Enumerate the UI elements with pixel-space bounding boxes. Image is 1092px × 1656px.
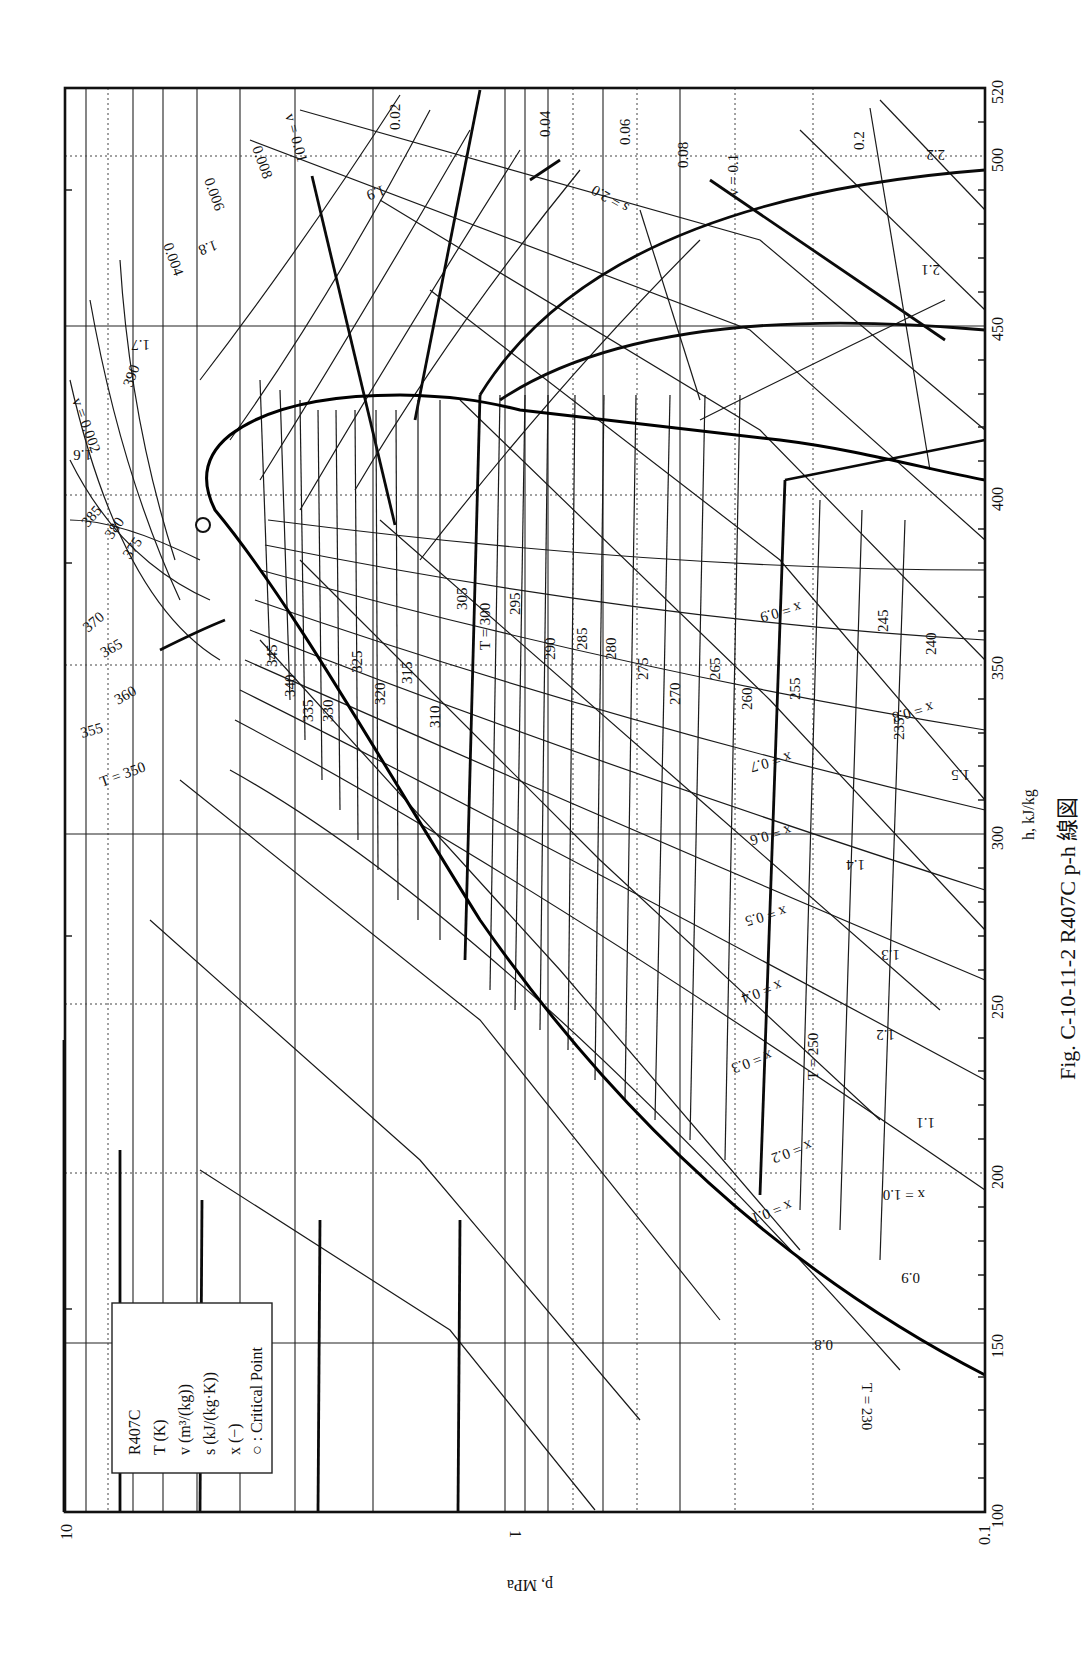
label-T310: 310 bbox=[427, 706, 443, 729]
label-T385: 385 bbox=[78, 502, 105, 530]
h-tick-450: 450 bbox=[989, 317, 1006, 341]
label-x01: x = 0.1 bbox=[749, 1197, 794, 1226]
label-s17: 1.7 bbox=[131, 337, 150, 353]
label-s11: 1.1 bbox=[916, 1115, 935, 1131]
h-tick-150: 150 bbox=[989, 1334, 1006, 1358]
x-axis-title: h, kJ/kg bbox=[1020, 789, 1038, 840]
isentropes bbox=[150, 100, 985, 1510]
label-v004: 0.04 bbox=[537, 110, 553, 137]
legend-name: R407C bbox=[126, 1410, 143, 1455]
label-s09: 0.9 bbox=[901, 1270, 920, 1286]
legend-entropy: s (kJ/(kg·K)) bbox=[201, 1372, 219, 1455]
label-s20: s = 2.0 bbox=[588, 182, 631, 216]
h-tick-500: 500 bbox=[989, 148, 1006, 172]
label-v0002: v = 0.002 bbox=[69, 396, 104, 455]
label-T345: 345 bbox=[264, 645, 280, 668]
label-T295: 295 bbox=[507, 593, 523, 616]
label-T245: 245 bbox=[875, 610, 891, 633]
p-axis-labels: 10 1 0.1 bbox=[58, 1524, 993, 1545]
label-T350: T = 350 bbox=[98, 759, 148, 790]
label-x10: x = 1.0 bbox=[883, 1187, 925, 1203]
label-s22: 2.2 bbox=[926, 147, 945, 163]
label-x05: x = 0.5 bbox=[743, 903, 788, 929]
label-T300: T = 300 bbox=[477, 603, 493, 650]
label-T355: 355 bbox=[79, 720, 105, 741]
label-T365: 365 bbox=[98, 635, 125, 660]
label-v02: 0.2 bbox=[851, 131, 867, 150]
label-x08: x = 0.8 bbox=[890, 699, 935, 725]
label-v01: v = 0.1 bbox=[725, 154, 741, 196]
h-tick-100: 100 bbox=[989, 1504, 1006, 1528]
label-s21: 2.1 bbox=[921, 262, 940, 278]
label-v0008: 0.008 bbox=[249, 144, 276, 181]
label-x06: x = 0.6 bbox=[748, 822, 793, 849]
label-T285: 285 bbox=[574, 628, 590, 651]
label-T335: 335 bbox=[300, 700, 316, 723]
label-T255: 255 bbox=[787, 678, 803, 701]
h-tick-520: 520 bbox=[989, 80, 1006, 104]
ph-diagram: R407C T (K) v (m³/(kg)) s (kJ/(kg·K)) x … bbox=[0, 0, 1092, 1656]
h-tick-300: 300 bbox=[989, 826, 1006, 850]
label-T330: 330 bbox=[320, 700, 336, 723]
label-x04: x = 0.4 bbox=[739, 977, 785, 1007]
label-s13: 1.3 bbox=[881, 947, 900, 963]
h-tick-350: 350 bbox=[989, 656, 1006, 680]
figure-caption: Fig. C-10-11-2 R407C p-h 線図 bbox=[1055, 797, 1080, 1080]
p-tick-10: 10 bbox=[58, 1524, 75, 1540]
h-axis-labels: 100 150 200 250 300 350 400 450 500 520 bbox=[989, 80, 1006, 1528]
label-T280: 280 bbox=[603, 638, 619, 661]
y-axis-title: p, MPa bbox=[507, 1576, 553, 1594]
legend-critical-point: ○ : Critical Point bbox=[248, 1347, 265, 1455]
label-T320: 320 bbox=[372, 683, 388, 706]
label-s18: 1.8 bbox=[196, 237, 219, 258]
label-s12: 1.2 bbox=[876, 1027, 895, 1043]
label-v008: 0.08 bbox=[675, 142, 691, 168]
h-tick-200: 200 bbox=[989, 1165, 1006, 1189]
label-T305: 305 bbox=[454, 588, 470, 611]
label-v006: 0.06 bbox=[617, 118, 633, 145]
label-T240: 240 bbox=[923, 633, 939, 656]
saturation-dome bbox=[207, 395, 985, 1375]
label-T270: 270 bbox=[667, 683, 683, 706]
label-T390: 390 bbox=[120, 362, 143, 389]
label-T340: 340 bbox=[282, 675, 298, 698]
label-v0006: 0.006 bbox=[201, 176, 228, 214]
pressure-gridlines bbox=[86, 88, 813, 1512]
p-tick-1: 1 bbox=[507, 1530, 524, 1538]
label-T230: T = 230 bbox=[859, 1383, 875, 1430]
label-x03: x = 0.3 bbox=[729, 1047, 774, 1076]
label-T360: 360 bbox=[112, 682, 139, 707]
label-T315: 315 bbox=[399, 662, 415, 685]
label-v0004: 0.004 bbox=[160, 241, 187, 279]
label-T325: 325 bbox=[349, 651, 365, 674]
legend-volume: v (m³/(kg)) bbox=[176, 1384, 194, 1455]
h-tick-400: 400 bbox=[989, 487, 1006, 511]
label-T275: 275 bbox=[635, 658, 651, 681]
label-v002: 0.02 bbox=[387, 104, 403, 130]
label-s15: 1.5 bbox=[951, 767, 970, 783]
legend-temperature: T (K) bbox=[151, 1419, 169, 1455]
p-tick-0.1: 0.1 bbox=[976, 1525, 993, 1545]
legend-quality: x (−) bbox=[226, 1423, 244, 1455]
h-tick-250: 250 bbox=[989, 995, 1006, 1019]
label-T370: 370 bbox=[80, 609, 108, 636]
label-s14: 1.4 bbox=[846, 857, 865, 873]
label-T265: 265 bbox=[707, 658, 723, 681]
label-s08: 0.8 bbox=[814, 1337, 833, 1353]
label-T250: T = 250 bbox=[805, 1033, 821, 1080]
label-x02: x = 0.2 bbox=[769, 1137, 814, 1166]
label-T290: 290 bbox=[542, 638, 558, 661]
critical-point-marker bbox=[196, 518, 210, 532]
label-T260: 260 bbox=[739, 688, 755, 711]
